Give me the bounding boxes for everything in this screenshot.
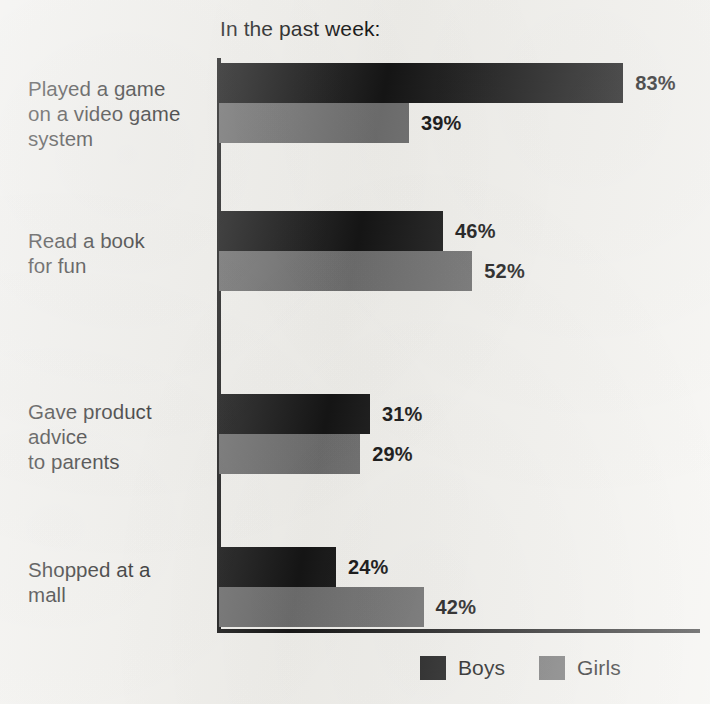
legend-item-boys: Boys: [420, 656, 505, 680]
legend-swatch-girls-icon: [539, 656, 565, 680]
bar-girls[interactable]: [219, 251, 472, 291]
legend-item-girls: Girls: [539, 656, 621, 680]
bar-row: 52%: [219, 251, 592, 291]
bar-boys[interactable]: [219, 211, 443, 251]
category-label: Gave product advice to parents: [28, 399, 213, 474]
bar-row: 39%: [219, 103, 529, 143]
bar-value-label: 31%: [382, 403, 423, 426]
plot-area: Played a game on a video game system83%3…: [0, 0, 710, 704]
bar-value-label: 29%: [372, 443, 413, 466]
bar-girls[interactable]: [219, 587, 424, 627]
bar-row: 46%: [219, 211, 563, 251]
bar-girls[interactable]: [219, 434, 360, 474]
bar-value-label: 52%: [484, 260, 525, 283]
legend-swatch-boys-icon: [420, 656, 446, 680]
category-label: Shopped at a mall: [28, 557, 213, 607]
bar-row: 24%: [219, 547, 456, 587]
bar-value-label: 24%: [348, 556, 389, 579]
bar-row: 29%: [219, 434, 480, 474]
legend-label-boys: Boys: [458, 656, 505, 680]
bar-boys[interactable]: [219, 547, 336, 587]
category-label: Played a game on a video game system: [28, 76, 213, 151]
bar-boys[interactable]: [219, 63, 623, 103]
bar-row: 42%: [219, 587, 544, 627]
bar-boys[interactable]: [219, 394, 370, 434]
bar-value-label: 42%: [436, 596, 477, 619]
bar-value-label: 39%: [421, 112, 462, 135]
bar-girls[interactable]: [219, 103, 409, 143]
legend-label-girls: Girls: [577, 656, 621, 680]
category-label: Read a book for fun: [28, 228, 213, 278]
chart-legend: Boys Girls: [420, 656, 621, 680]
bar-row: 83%: [219, 63, 710, 103]
grouped-bar-chart: In the past week: Played a game on a vid…: [0, 0, 710, 704]
bar-value-label: 46%: [455, 220, 496, 243]
bar-value-label: 83%: [635, 72, 676, 95]
bar-row: 31%: [219, 394, 490, 434]
